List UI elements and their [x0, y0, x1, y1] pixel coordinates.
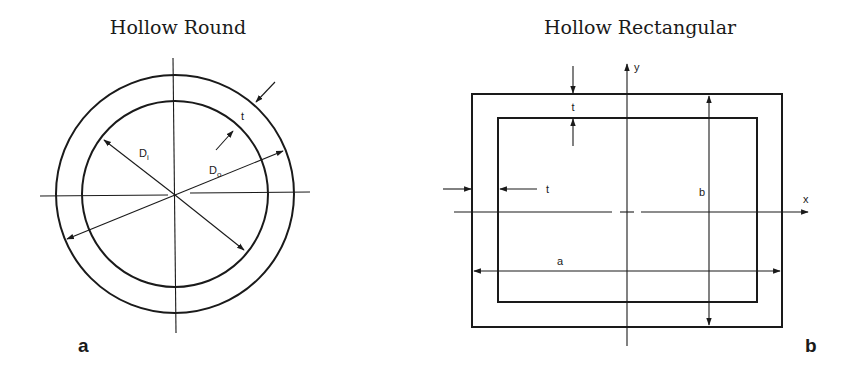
- y-axis-label: y: [634, 61, 640, 73]
- x-axis-label: x: [803, 193, 809, 205]
- hollow-rectangular-figure: Hollow Rectangular y x t t b a b: [443, 16, 817, 356]
- cross-section-figure: Hollow Round Di Do t a Hollow Rectangula…: [0, 0, 852, 371]
- hollow-rectangular-title: Hollow Rectangular: [544, 16, 737, 38]
- thickness-arrow-inner: [216, 131, 233, 150]
- hollow-round-title: Hollow Round: [110, 16, 246, 38]
- thickness-arrow-outer: [256, 82, 275, 102]
- hollow-round-figure: Hollow Round Di Do t a: [40, 16, 310, 356]
- diagram-canvas: Hollow Round Di Do t a Hollow Rectangula…: [0, 0, 852, 371]
- outer-diameter-arrow-upper: [175, 151, 283, 195]
- panel-label-a: a: [78, 335, 89, 356]
- round-horizontal-axis-right: [190, 192, 310, 193]
- height-label: b: [699, 186, 705, 198]
- panel-label-b: b: [805, 335, 817, 356]
- thickness-label-side: t: [546, 183, 549, 195]
- round-horizontal-axis-left: [40, 195, 168, 196]
- thickness-label-round: t: [241, 110, 244, 122]
- width-label: a: [557, 255, 564, 267]
- inner-diameter-arrow-lower: [175, 195, 244, 250]
- thickness-label-top: t: [571, 101, 574, 113]
- outer-diameter-label: Do: [209, 164, 222, 179]
- inner-diameter-label: Di: [139, 147, 149, 162]
